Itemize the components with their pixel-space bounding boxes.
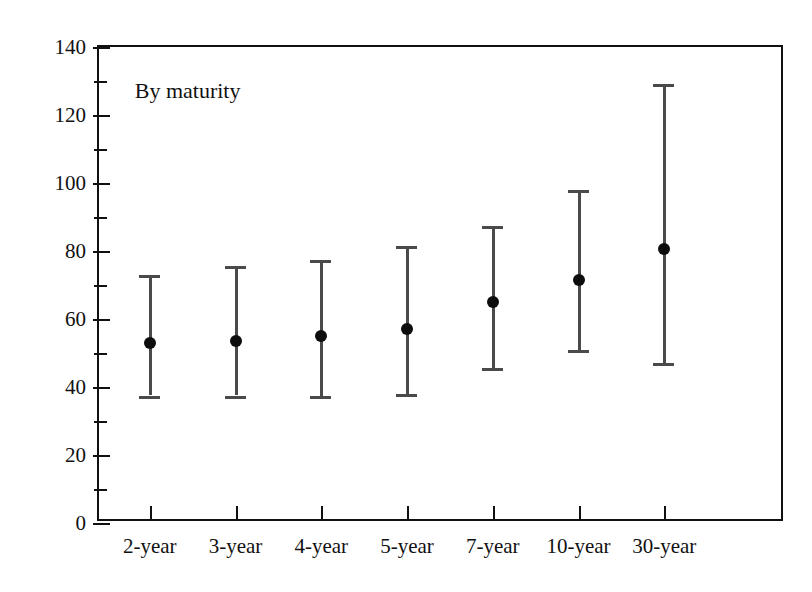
panel-annotation-label: By maturity [135,80,241,102]
y-axis-tick-minor-outer [94,81,99,83]
range-bar-stem [149,275,152,396]
y-axis-tick-minor-outer [94,353,99,355]
range-bar-high-cap [482,226,503,229]
y-axis-tick-major [99,387,110,389]
y-axis-tick-minor [99,489,107,491]
y-axis-tick-minor [99,217,107,219]
midpoint-dot [658,243,670,255]
range-bar-high-cap [310,260,331,263]
midpoint-dot [487,296,499,308]
y-axis-tick-major-outer [93,183,99,185]
y-axis-tick-major-outer [93,115,99,117]
y-axis-tick-minor [99,81,107,83]
y-axis-tick-label: 0 [76,513,87,534]
y-axis-tick-minor [99,353,107,355]
y-axis-tick-minor-outer [94,489,99,491]
y-axis-tick-major [99,115,110,117]
y-axis-tick-label: 20 [65,445,86,466]
range-bar-low-cap [653,363,674,366]
y-axis-tick-label: 120 [55,105,87,126]
y-axis-tick-major [99,523,110,525]
x-axis-tick-label-30-year: 30-year [632,536,696,557]
y-axis-tick-major [99,183,110,185]
y-axis-tick-major-outer [93,47,99,49]
midpoint-dot [144,337,156,349]
y-axis-tick-label: 80 [65,241,86,262]
x-axis-tick [493,506,495,519]
y-axis-tick-major-outer [93,387,99,389]
midpoint-dot [573,274,585,286]
y-axis-tick-minor-outer [94,285,99,287]
y-axis-tick-minor-outer [94,217,99,219]
y-axis-tick-label: 100 [55,173,87,194]
y-axis-tick-major-outer [93,251,99,253]
x-axis-tick-label-3-year: 3-year [209,536,263,557]
range-bar-high-cap [139,275,160,278]
x-axis-tick [579,506,581,519]
y-axis-tick-major [99,455,110,457]
y-axis-tick-minor [99,285,107,287]
midpoint-dot [401,323,413,335]
range-bar-low-cap [310,396,331,399]
x-axis-tick-label-4-year: 4-year [294,536,348,557]
x-axis-tick [407,506,409,519]
y-axis-tick-label: 60 [65,309,86,330]
range-bar-low-cap [139,396,160,399]
chart-root: By maturity 020406080100120140 2-year3-y… [0,0,812,592]
range-bar-low-cap [568,350,589,353]
range-bar-stem [663,84,666,363]
y-axis-tick-minor-outer [94,149,99,151]
y-axis-tick-major [99,251,110,253]
y-axis-tick-minor-outer [94,421,99,423]
x-axis-tick [664,506,666,519]
range-bar-stem [578,190,581,350]
range-bar-stem [406,246,409,394]
y-axis-tick-major-outer [93,523,99,525]
y-axis-tick-major-outer [93,319,99,321]
range-bar-low-cap [225,396,246,399]
range-bar-low-cap [396,394,417,397]
range-bar-stem [320,260,323,396]
range-bar-stem [235,266,238,395]
x-axis-tick [150,506,152,519]
y-axis-tick-minor [99,149,107,151]
range-bar-low-cap [482,368,503,371]
midpoint-dot [230,335,242,347]
y-axis-tick-label: 140 [55,37,87,58]
y-axis-tick-major [99,47,110,49]
y-axis-tick-major-outer [93,455,99,457]
x-axis-tick-label-7-year: 7-year [466,536,520,557]
plot-area: By maturity 020406080100120140 2-year3-y… [97,45,783,521]
y-axis-tick-minor [99,421,107,423]
midpoint-dot [315,330,327,342]
range-bar-high-cap [653,84,674,87]
x-axis-tick [236,506,238,519]
range-bar-high-cap [396,246,417,249]
range-bar-high-cap [568,190,589,193]
x-axis-tick-label-2-year: 2-year [123,536,177,557]
y-axis-tick-major [99,319,110,321]
x-axis-tick-label-5-year: 5-year [380,536,434,557]
y-axis-tick-label: 40 [65,377,86,398]
x-axis-tick-label-10-year: 10-year [546,536,610,557]
x-axis-tick [321,506,323,519]
range-bar-high-cap [225,266,246,269]
